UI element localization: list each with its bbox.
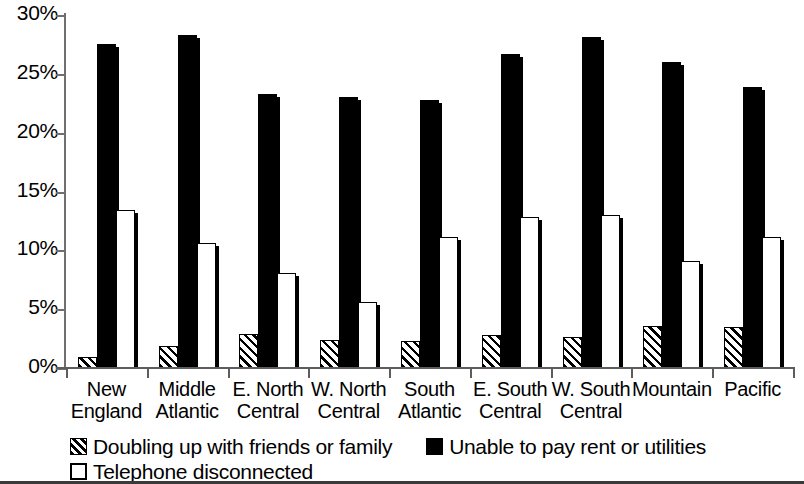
bar <box>358 302 377 368</box>
x-axis-separator-tick <box>389 369 391 378</box>
x-axis-separator-tick <box>551 369 553 378</box>
plot-area <box>64 10 793 368</box>
legend-item-doubling-up: Doubling up with friends or family <box>70 434 392 459</box>
bar <box>762 237 781 368</box>
bar <box>197 243 216 368</box>
bar-group <box>78 10 135 368</box>
bar <box>320 340 339 368</box>
y-axis-tick-label: 20% <box>0 120 58 141</box>
bar-group <box>320 10 377 368</box>
legend-label-unable-to-pay: Unable to pay rent or utilities <box>449 434 706 459</box>
legend-label-doubling-up: Doubling up with friends or family <box>93 434 392 459</box>
bar-group <box>239 10 296 368</box>
bar <box>277 273 296 368</box>
x-axis-separator-tick <box>228 369 230 378</box>
x-axis-line <box>56 367 795 369</box>
y-axis-tick-label: 5% <box>0 296 58 317</box>
x-axis-separator-tick <box>308 369 310 378</box>
y-axis-tick-label: 15% <box>0 179 58 200</box>
y-axis-tick-label: 10% <box>0 237 58 258</box>
open-square-icon <box>70 463 87 480</box>
bar <box>159 346 178 368</box>
bar-group <box>563 10 620 368</box>
bar <box>258 94 277 368</box>
bar <box>563 337 582 368</box>
bar-group <box>401 10 458 368</box>
filled-square-icon <box>426 438 443 455</box>
category-label-line: Pacific <box>704 378 801 400</box>
bar-group <box>643 10 700 368</box>
bar-group <box>159 10 216 368</box>
legend-item-unable-to-pay: Unable to pay rent or utilities <box>426 434 706 459</box>
bar-group <box>724 10 781 368</box>
bar <box>239 334 258 368</box>
bar <box>178 35 197 368</box>
x-axis-separator-tick <box>631 369 633 378</box>
bar <box>116 210 135 368</box>
category-label: Pacific <box>704 378 801 400</box>
bar-group <box>482 10 539 368</box>
x-axis-separator-tick <box>712 369 714 378</box>
bar <box>339 97 358 368</box>
category-label-line: Central <box>543 400 640 422</box>
x-axis-separator-tick <box>793 369 795 378</box>
bar <box>501 54 520 368</box>
bar <box>724 327 743 368</box>
bar <box>662 62 681 368</box>
hatched-square-icon <box>70 438 87 455</box>
x-axis-separator-tick <box>147 369 149 378</box>
bar-chart: 30%25%20%15%10%5%0% NewEnglandMiddleAtla… <box>0 0 804 484</box>
bar <box>643 326 662 368</box>
bar <box>582 37 601 368</box>
bar <box>401 341 420 368</box>
y-axis-tick-label: 25% <box>0 61 58 82</box>
chart-legend: Doubling up with friends or family Unabl… <box>70 434 790 484</box>
x-axis-separator-tick <box>66 369 68 378</box>
bar <box>420 100 439 368</box>
bar <box>439 237 458 368</box>
bar <box>681 261 700 368</box>
bar <box>520 217 539 368</box>
x-axis-separator-tick <box>470 369 472 378</box>
y-axis-tick-label: 0% <box>0 355 58 376</box>
bar <box>97 44 116 368</box>
bar <box>482 335 501 368</box>
bar <box>743 87 762 368</box>
y-axis-tick-label: 30% <box>0 2 58 23</box>
legend-row-1: Doubling up with friends or family Unabl… <box>70 434 790 459</box>
bar <box>601 215 620 368</box>
